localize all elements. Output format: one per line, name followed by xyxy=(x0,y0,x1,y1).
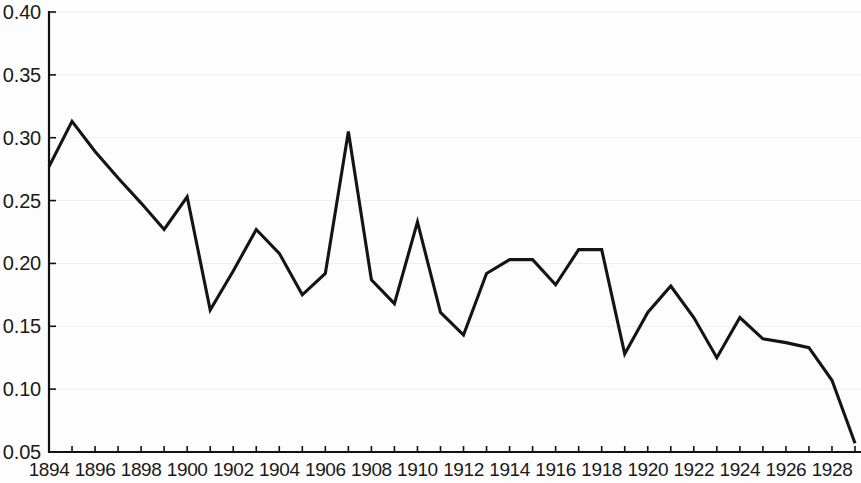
x-tick-label: 1910 xyxy=(391,460,443,479)
x-tick-label: 1904 xyxy=(253,460,305,479)
y-tick-label: 0.40 xyxy=(0,2,41,22)
y-tick-label: 0.25 xyxy=(0,191,41,211)
x-tick-label: 1894 xyxy=(23,460,75,479)
x-tick-label: 1912 xyxy=(438,460,490,479)
x-tick-label: 1908 xyxy=(345,460,397,479)
data-series-line xyxy=(49,121,855,443)
y-tick-label: 0.35 xyxy=(0,65,41,85)
x-tick-label: 1922 xyxy=(668,460,720,479)
y-tick-label: 0.30 xyxy=(0,128,41,148)
grid-lines xyxy=(49,12,861,452)
x-tick-label: 1898 xyxy=(115,460,167,479)
x-tick-label: 1918 xyxy=(576,460,628,479)
y-tick-label: 0.20 xyxy=(0,253,41,273)
x-tick-label: 1900 xyxy=(161,460,213,479)
x-tick-label: 1916 xyxy=(530,460,582,479)
y-tick-label: 0.15 xyxy=(0,316,41,336)
x-tick-label: 1928 xyxy=(806,460,858,479)
axis-ticks xyxy=(49,12,855,452)
line-chart: 0.400.350.300.250.200.150.100.05 1894189… xyxy=(0,0,861,483)
x-tick-label: 1914 xyxy=(484,460,536,479)
axis-lines xyxy=(49,12,861,452)
x-tick-label: 1896 xyxy=(69,460,121,479)
y-tick-label: 0.10 xyxy=(0,379,41,399)
x-tick-label: 1920 xyxy=(622,460,674,479)
x-tick-label: 1906 xyxy=(299,460,351,479)
chart-plot-area xyxy=(0,0,861,483)
x-tick-label: 1926 xyxy=(760,460,812,479)
x-tick-label: 1902 xyxy=(207,460,259,479)
x-tick-label: 1924 xyxy=(714,460,766,479)
